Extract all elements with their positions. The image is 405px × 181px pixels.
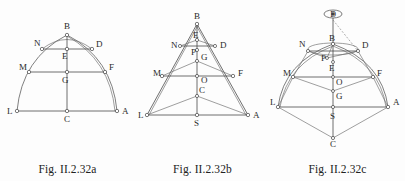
figure-c-drawing: D xyxy=(270,0,405,150)
label-s: S xyxy=(194,118,199,128)
node-f xyxy=(103,70,106,73)
segment-ac xyxy=(197,96,248,115)
sight-ray-to-d xyxy=(333,20,358,51)
node-l xyxy=(145,113,148,116)
figure-b-drawing: B E N D P G M F O C L A S xyxy=(135,0,270,150)
label-n: N xyxy=(34,38,41,48)
eye-label: D xyxy=(330,10,336,19)
node-d xyxy=(90,47,93,50)
figure-a-caption: Fig. II.2.32a xyxy=(0,163,135,175)
segment-ne xyxy=(180,40,197,46)
label-c: C xyxy=(64,114,70,124)
figure-panel-a: B N D E M F G L C A Fig. II.2.32a xyxy=(0,0,135,181)
node-l xyxy=(276,105,279,108)
figure-panel-b: B E N D P G M F O C L A S Fig. II.2.32b xyxy=(135,0,270,181)
label-f: F xyxy=(238,68,243,78)
node-o xyxy=(195,74,198,77)
segment-de xyxy=(197,40,215,46)
label-n: N xyxy=(171,40,178,50)
node-a xyxy=(386,105,389,108)
segment-ml xyxy=(278,77,293,107)
node-n xyxy=(178,44,181,47)
label-n: N xyxy=(299,39,306,49)
node-a xyxy=(246,113,249,116)
label-l: L xyxy=(138,110,144,120)
node-l xyxy=(15,109,18,112)
label-m: M xyxy=(19,62,27,72)
label-o: O xyxy=(336,77,343,87)
label-c: C xyxy=(330,139,336,149)
node-f xyxy=(371,75,374,78)
segment-fg xyxy=(197,61,233,76)
label-g: G xyxy=(62,75,69,85)
label-a: A xyxy=(253,110,260,120)
label-e: E xyxy=(193,30,199,40)
node-c xyxy=(65,109,68,112)
node-n xyxy=(306,49,309,52)
label-a: A xyxy=(393,97,400,107)
label-g: G xyxy=(201,52,208,62)
label-l: L xyxy=(7,106,13,116)
node-a xyxy=(115,109,118,112)
label-o: O xyxy=(201,75,208,85)
node-g xyxy=(65,70,68,73)
node-b xyxy=(195,22,198,25)
label-b: B xyxy=(194,11,200,21)
label-s: S xyxy=(330,111,335,121)
node-g xyxy=(195,59,198,62)
label-b: B xyxy=(64,21,70,31)
segment-ac xyxy=(333,107,388,138)
label-g: G xyxy=(336,91,343,101)
node-m xyxy=(27,70,30,73)
figure-c-caption: Fig. II.2.32c xyxy=(270,163,405,175)
label-d: D xyxy=(362,40,369,50)
node-g xyxy=(332,90,335,93)
eye-icon: D xyxy=(324,10,342,19)
segment-dp xyxy=(327,51,358,58)
node-m xyxy=(291,75,294,78)
node-s xyxy=(331,105,334,108)
label-m: M xyxy=(283,68,291,78)
label-c: C xyxy=(199,85,205,95)
node-d xyxy=(356,49,359,52)
label-e: E xyxy=(329,63,335,73)
figure-b-caption: Fig. II.2.32b xyxy=(135,163,270,175)
node-d xyxy=(213,44,216,47)
label-f: F xyxy=(109,62,114,72)
label-d: D xyxy=(220,40,227,50)
segment-fa xyxy=(373,77,388,107)
node-f xyxy=(231,74,234,77)
node-b xyxy=(65,33,68,36)
label-e: E xyxy=(62,51,68,61)
segment-df xyxy=(358,51,373,77)
label-p: P xyxy=(321,53,326,63)
figure-panel-c: D xyxy=(270,0,405,181)
segment-nm xyxy=(293,51,308,77)
label-f: F xyxy=(377,68,382,78)
label-b: B xyxy=(329,33,335,43)
label-d: D xyxy=(96,39,103,49)
segment-mg xyxy=(293,77,333,91)
segment-mg xyxy=(162,61,197,76)
node-o xyxy=(332,76,335,79)
segment-lc xyxy=(278,107,333,138)
label-a: A xyxy=(122,106,129,116)
node-s xyxy=(195,113,198,116)
label-p: P xyxy=(191,47,196,57)
label-m: M xyxy=(153,68,161,78)
node-n xyxy=(40,47,43,50)
label-l: L xyxy=(270,97,276,107)
figure-a-drawing: B N D E M F G L C A xyxy=(0,0,135,150)
